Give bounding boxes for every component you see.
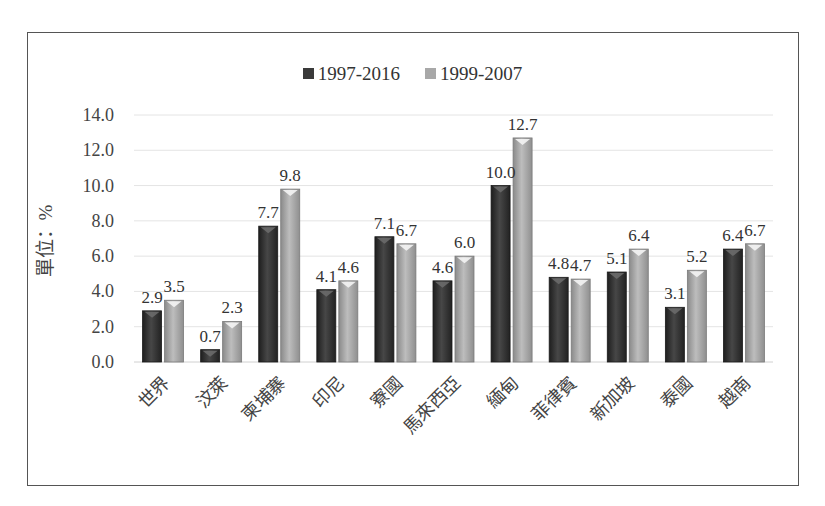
data-label: 4.7 [570, 256, 592, 275]
bar-rect [455, 256, 474, 362]
bar-rect [165, 300, 184, 362]
bar-series-1 [607, 272, 626, 362]
data-label: 6.4 [628, 226, 650, 245]
bar-series-2 [397, 244, 416, 362]
x-tick-label: 寮國 [366, 372, 406, 412]
bar-rect [491, 186, 510, 362]
data-label: 6.0 [454, 233, 475, 252]
data-label: 2.9 [141, 288, 162, 307]
y-tick-label: 0.0 [92, 352, 115, 372]
bar-series-1 [491, 186, 510, 362]
data-label: 6.7 [744, 221, 766, 240]
bar-rect [513, 138, 532, 362]
data-label: 6.7 [396, 221, 418, 240]
data-label: 2.3 [222, 298, 243, 317]
y-tick-label: 12.0 [83, 140, 115, 160]
bar-rect [665, 307, 684, 362]
bar-series-1 [143, 311, 162, 362]
y-tick-label: 6.0 [92, 246, 115, 266]
x-tick-label: 越南 [714, 372, 754, 412]
y-axis-title: 單位：% [35, 204, 56, 277]
data-label: 4.1 [316, 267, 337, 286]
bar-rect [317, 290, 336, 362]
x-axis: 世界汶萊柬埔寨印尼寮國馬來西亞緬甸菲律賓新加坡泰國越南 [134, 372, 755, 438]
x-tick-label: 柬埔寨 [237, 372, 290, 425]
x-tick-label: 汶萊 [192, 372, 232, 412]
data-label: 0.7 [200, 327, 222, 346]
bar-series-2 [687, 270, 706, 362]
x-tick-label: 新加坡 [586, 372, 639, 425]
bar-rect [723, 249, 742, 362]
x-tick-label: 緬甸 [482, 372, 522, 412]
data-label: 5.1 [606, 249, 627, 268]
bar-series-1 [201, 350, 220, 362]
y-tick-label: 2.0 [92, 317, 115, 337]
data-label: 12.7 [508, 115, 538, 134]
bar-rect [397, 244, 416, 362]
bar-series-2 [571, 279, 590, 362]
bar-series-1 [317, 290, 336, 362]
x-tick-label: 泰國 [656, 372, 696, 412]
y-tick-label: 8.0 [92, 211, 115, 231]
x-tick-label: 印尼 [308, 372, 348, 412]
bar-series-1 [375, 237, 394, 362]
bar-rect [143, 311, 162, 362]
y-tick-label: 14.0 [83, 105, 115, 125]
y-tick-label: 10.0 [83, 176, 115, 196]
bar-series-2 [513, 138, 532, 362]
data-label: 7.1 [374, 214, 395, 233]
data-label: 9.8 [280, 166, 301, 185]
data-label: 4.6 [432, 258, 453, 277]
bar-series-1 [259, 226, 278, 362]
y-tick-label: 4.0 [92, 281, 115, 301]
bar-series-2 [745, 244, 764, 362]
bar-rect [259, 226, 278, 362]
bar-series-2 [455, 256, 474, 362]
bar-rect [549, 277, 568, 362]
bar-series-2 [223, 321, 242, 362]
data-label: 4.8 [548, 254, 569, 273]
data-label: 10.0 [486, 163, 516, 182]
bar-rect [745, 244, 764, 362]
bar-series-1 [549, 277, 568, 362]
data-label: 6.4 [722, 226, 744, 245]
bar-rect [607, 272, 626, 362]
bar-series-2 [629, 249, 648, 362]
data-label: 3.5 [163, 277, 184, 296]
bar-rect [433, 281, 452, 362]
bar-series-2 [165, 300, 184, 362]
bar-rect [687, 270, 706, 362]
data-label: 4.6 [338, 258, 359, 277]
bar-chart: 0.02.04.06.08.010.012.014.0 2.93.50.72.3… [0, 0, 825, 506]
x-tick-label: 馬來西亞 [399, 372, 465, 438]
bar-series-2 [339, 281, 358, 362]
data-label: 7.7 [258, 203, 280, 222]
data-label: 5.2 [686, 247, 707, 266]
bar-rect [339, 281, 358, 362]
bar-rect [375, 237, 394, 362]
bar-series-1 [433, 281, 452, 362]
data-label: 3.1 [664, 284, 685, 303]
bar-rect [571, 279, 590, 362]
bar-rect [281, 189, 300, 362]
x-tick-label: 菲律賓 [527, 372, 580, 425]
y-axis: 0.02.04.06.08.010.012.014.0 [83, 105, 115, 372]
bar-series-1 [723, 249, 742, 362]
bar-series-2 [281, 189, 300, 362]
bar-rect [629, 249, 648, 362]
x-tick-label: 世界 [134, 372, 174, 412]
bar-series-1 [665, 307, 684, 362]
